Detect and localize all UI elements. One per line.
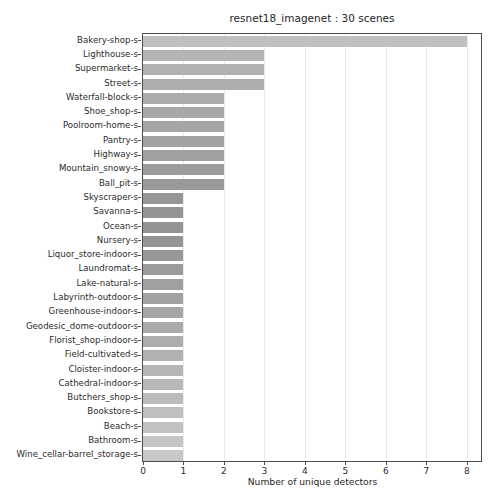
gridline: [305, 34, 306, 461]
x-axis-tick-label: 3: [262, 466, 268, 476]
bar: [143, 36, 467, 47]
chart-title: resnet18_imagenet : 30 scenes: [142, 12, 482, 24]
bar: [143, 93, 224, 104]
y-axis-tick-mark: [138, 426, 141, 427]
y-axis-tick-label: Mountain_snowy-s: [3, 164, 138, 173]
y-axis-tick-mark: [138, 398, 141, 399]
y-axis-tick-mark: [138, 97, 141, 98]
y-axis-tick-label: Supermarket-s: [3, 64, 138, 73]
y-axis-tick-mark: [138, 40, 141, 41]
y-axis-tick-label: Labyrinth-outdoor-s: [3, 293, 138, 302]
y-axis-tick-label: Geodesic_dome-outdoor-s: [3, 322, 138, 331]
x-axis-tick-label: 7: [423, 466, 429, 476]
bar: [143, 207, 183, 218]
x-axis-tick-label: 8: [464, 466, 470, 476]
y-axis-tick-label: Nursery-s: [3, 236, 138, 245]
y-axis-tick-mark: [138, 212, 141, 213]
y-axis-tick-mark: [138, 312, 141, 313]
y-axis-tick-mark: [138, 240, 141, 241]
bar: [143, 179, 224, 190]
y-axis-tick-label: Waterfall-block-s: [3, 93, 138, 102]
bar: [143, 407, 183, 418]
y-axis-tick-mark: [138, 298, 141, 299]
bar: [143, 222, 183, 233]
y-axis-tick-label: Butchers_shop-s: [3, 393, 138, 402]
bar: [143, 393, 183, 404]
x-axis-tick-mark: [264, 462, 265, 465]
gridline: [386, 34, 387, 461]
y-axis-tick-label: Bathroom-s: [3, 436, 138, 445]
y-axis-tick-mark: [138, 83, 141, 84]
y-axis-tick-mark: [138, 355, 141, 356]
bar: [143, 64, 264, 75]
x-axis-tick-label: 5: [343, 466, 349, 476]
y-axis-tick-mark: [138, 441, 141, 442]
bar: [143, 350, 183, 361]
bar: [143, 422, 183, 433]
y-axis-tick-mark: [138, 112, 141, 113]
bar: [143, 250, 183, 261]
bar: [143, 79, 264, 90]
x-axis-tick-label: 6: [383, 466, 389, 476]
y-axis-tick-mark: [138, 369, 141, 370]
x-axis-tick-mark: [467, 462, 468, 465]
y-axis-tick-mark: [138, 226, 141, 227]
y-axis-tick-label: Highway-s: [3, 150, 138, 159]
bar: [143, 307, 183, 318]
bar: [143, 121, 224, 132]
y-axis-labels: Bakery-shop-sLighthouse-sSupermarket-sSt…: [0, 33, 138, 462]
y-axis-tick-mark: [138, 183, 141, 184]
y-axis-tick-label: Wine_cellar-barrel_storage-s: [3, 450, 138, 459]
y-axis-tick-mark: [138, 283, 141, 284]
bar: [143, 107, 224, 118]
y-axis-tick-label: Poolroom-home-s: [3, 121, 138, 130]
x-axis-tick-label: 4: [302, 466, 308, 476]
y-axis-tick-label: Ball_pit-s: [3, 179, 138, 188]
y-axis-tick-label: Field-cultivated-s: [3, 350, 138, 359]
bar: [143, 193, 183, 204]
y-axis-tick-mark: [138, 255, 141, 256]
bar: [143, 279, 183, 290]
x-axis-tick-label: 2: [221, 466, 227, 476]
bar: [143, 293, 183, 304]
x-axis-tick-mark: [345, 462, 346, 465]
y-axis-tick-mark: [138, 383, 141, 384]
y-axis-tick-label: Skyscraper-s: [3, 193, 138, 202]
bar: [143, 379, 183, 390]
y-axis-tick-label: Liquor_store-indoor-s: [3, 250, 138, 259]
bar: [143, 450, 183, 461]
bar: [143, 264, 183, 275]
y-axis-tick-mark: [138, 126, 141, 127]
bar: [143, 136, 224, 147]
chart-figure: resnet18_imagenet : 30 scenes Bakery-sho…: [0, 0, 499, 504]
y-axis-tick-mark: [138, 269, 141, 270]
y-axis-tick-label: Bakery-shop-s: [3, 36, 138, 45]
x-axis-tick-mark: [305, 462, 306, 465]
gridline: [467, 34, 468, 461]
x-axis-title: Number of unique detectors: [142, 476, 483, 487]
y-axis-tick-mark: [138, 140, 141, 141]
gridline: [224, 34, 225, 461]
bar: [143, 150, 224, 161]
y-axis-tick-label: Florist_shop-indoor-s: [3, 336, 138, 345]
y-axis-tick-mark: [138, 326, 141, 327]
y-axis-tick-mark: [138, 455, 141, 456]
y-axis-tick-label: Lake-natural-s: [3, 279, 138, 288]
bar: [143, 322, 183, 333]
plot-area: [142, 33, 482, 462]
x-axis-tick-label: 1: [181, 466, 187, 476]
bar: [143, 50, 264, 61]
y-axis-tick-label: Lighthouse-s: [3, 50, 138, 59]
bar: [143, 436, 183, 447]
y-axis-tick-mark: [138, 169, 141, 170]
x-axis-tick-mark: [386, 462, 387, 465]
bar: [143, 164, 224, 175]
y-axis-tick-mark: [138, 69, 141, 70]
y-axis-tick-label: Pantry-s: [3, 136, 138, 145]
bar: [143, 336, 183, 347]
y-axis-tick-label: Shoe_shop-s: [3, 107, 138, 116]
x-axis-tick-mark: [183, 462, 184, 465]
y-axis-tick-label: Bookstore-s: [3, 407, 138, 416]
x-axis-tick-mark: [426, 462, 427, 465]
bar: [143, 236, 183, 247]
